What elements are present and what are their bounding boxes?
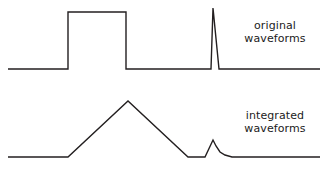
label-original-line2: waveforms — [231, 33, 319, 46]
label-integrated-line2: waveforms — [231, 123, 319, 136]
label-integrated-line1: integrated — [231, 110, 319, 123]
label-original-waveforms: original waveforms — [231, 20, 319, 45]
waveform-figure: original waveforms integrated waveforms — [0, 0, 322, 172]
label-original-line1: original — [231, 20, 319, 33]
label-integrated-waveforms: integrated waveforms — [231, 110, 319, 135]
